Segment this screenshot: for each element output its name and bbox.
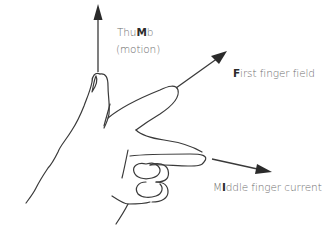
middle-label-suffix: ddle finger current xyxy=(226,181,322,193)
little-finger xyxy=(136,182,162,197)
little-knuckle xyxy=(152,182,168,202)
middle-label-prefix: M xyxy=(213,181,222,193)
first-finger-label: First finger field xyxy=(233,67,315,80)
left-hand-rule-diagram xyxy=(0,0,334,231)
finger-gap xyxy=(136,130,202,152)
first-finger-arrow xyxy=(176,51,227,88)
thumb-label-bold: M xyxy=(136,26,146,38)
middle-finger-arrow xyxy=(212,159,272,174)
thumb-arrow xyxy=(94,4,103,72)
thumb-label-suffix: b xyxy=(147,26,154,38)
first-label-suffix: irst finger field xyxy=(240,67,315,79)
wrist xyxy=(116,204,128,224)
thumb-label: ThuMb xyxy=(117,26,153,39)
thumb-label-prefix: Thu xyxy=(117,26,136,38)
thumb-inner xyxy=(100,74,109,128)
ring-finger xyxy=(134,163,160,179)
middle-finger-label: MIddle finger current xyxy=(213,181,322,194)
middle-finger-outline xyxy=(130,154,206,166)
thumb-outline xyxy=(26,73,100,203)
thumb-label-motion: (motion) xyxy=(116,43,160,56)
palm-crease xyxy=(122,150,128,178)
first-finger-outline xyxy=(108,86,178,130)
hand-outline xyxy=(26,73,206,224)
